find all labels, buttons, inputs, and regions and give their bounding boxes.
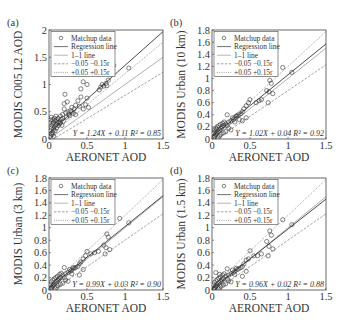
y-tick-label: 1.4 <box>34 197 48 208</box>
legend: Matchup dataRegression line1–1 line−0.05… <box>51 180 117 226</box>
panel-label: (b) <box>170 17 183 29</box>
data-point <box>269 233 273 237</box>
y-tick-label: 1 <box>205 222 210 233</box>
y-tick-label: 1.2 <box>34 210 47 221</box>
data-point <box>127 66 131 70</box>
y-tick-label: 0.4 <box>197 260 211 271</box>
x-axis-label: AERONET AOD <box>229 151 310 163</box>
y-axis-label: MODIS Urban (3 km) <box>12 183 25 286</box>
y-tick-label: 1.6 <box>197 37 210 48</box>
data-point <box>86 105 90 109</box>
y-tick-label: 1.2 <box>197 210 210 221</box>
data-point <box>63 92 67 96</box>
y-tick-label: 1.4 <box>197 197 211 208</box>
data-point <box>240 274 244 278</box>
y-tick-label: 0.4 <box>197 109 211 120</box>
x-tick-label: 0 <box>46 291 51 302</box>
figure-canvas: 00.511.500.511.52AERONET AODMODIS C005 L… <box>0 0 347 329</box>
legend-label: +0.05 +0.15r <box>71 216 110 225</box>
x-tick-label: 0.5 <box>80 140 93 151</box>
data-point <box>267 244 271 248</box>
regression-equation: Y = 0.96X + 0.02 R² = 0.88 <box>235 280 324 289</box>
y-tick-label: 0 <box>205 134 210 145</box>
data-point <box>85 249 89 253</box>
y-tick-label: 1 <box>42 79 47 90</box>
y-tick-label: 1.5 <box>34 52 47 63</box>
y-axis-label: MODIS Urban (1.5 km) <box>175 178 188 289</box>
y-tick-label: 0.2 <box>197 272 210 283</box>
panel-label: (c) <box>7 165 19 177</box>
y-tick-label: 2 <box>42 25 47 36</box>
x-tick-label: 0 <box>209 140 214 151</box>
data-point <box>77 273 81 277</box>
legend-label: +0.05 +0.15r <box>234 68 273 77</box>
y-axis-label: MODIS C005 L2 AOD <box>12 31 24 139</box>
x-tick-label: 0.5 <box>243 291 256 302</box>
x-tick-label: 0.5 <box>243 140 256 151</box>
x-tick-label: 1.5 <box>319 291 332 302</box>
data-point <box>225 267 229 271</box>
y-tick-label: 0.4 <box>34 260 48 271</box>
data-point <box>281 218 285 222</box>
y-tick-label: 1.8 <box>34 173 47 184</box>
y-tick-label: 0.5 <box>34 106 47 117</box>
x-tick-label: 1 <box>122 291 127 302</box>
data-point <box>248 249 252 253</box>
y-axis-label: MODIS Urban (10 km) <box>175 30 188 138</box>
x-tick-label: 1 <box>122 140 127 151</box>
x-tick-label: 1.5 <box>156 291 169 302</box>
y-tick-label: 1.8 <box>197 173 210 184</box>
y-tick-label: 1 <box>42 222 47 233</box>
y-tick-label: 0 <box>205 285 210 296</box>
panel-b: 00.511.500.20.40.60.811.21.41.61.8AERONE… <box>170 17 333 163</box>
y-tick-label: 1.6 <box>197 185 210 196</box>
regression-equation: Y = 1.02X + 0.04 R² = 0.92 <box>235 129 324 138</box>
data-point <box>81 80 85 84</box>
data-point <box>225 113 229 117</box>
data-point <box>62 107 66 111</box>
panel-c: 00.511.500.20.40.60.811.21.41.61.8AERONE… <box>7 165 170 314</box>
y-tick-label: 1.4 <box>197 49 211 60</box>
data-point <box>85 82 89 86</box>
panel-label: (d) <box>170 165 183 177</box>
y-tick-label: 0.6 <box>34 247 47 258</box>
data-point <box>281 65 285 69</box>
x-axis-label: AERONET AOD <box>66 151 147 163</box>
legend-label: +0.05 +0.15r <box>71 68 110 77</box>
data-point <box>62 266 66 270</box>
x-tick-label: 1 <box>285 291 290 302</box>
y-tick-label: 0.2 <box>197 121 210 132</box>
data-point <box>271 247 275 251</box>
x-axis-label: AERONET AOD <box>229 302 310 314</box>
x-tick-label: 0.5 <box>80 291 93 302</box>
x-tick-label: 0 <box>46 140 51 151</box>
data-point <box>218 272 222 276</box>
legend: Matchup dataRegression line1–1 line−0.05… <box>51 32 117 78</box>
data-point <box>244 269 248 273</box>
y-tick-label: 0 <box>42 285 47 296</box>
y-tick-label: 0.8 <box>197 235 210 246</box>
legend-label: +0.05 +0.15r <box>234 216 273 225</box>
y-tick-label: 0.6 <box>197 97 210 108</box>
regression-equation: Y = 0.99X + 0.03 R² = 0.90 <box>72 280 161 289</box>
legend: Matchup dataRegression line1–1 line−0.05… <box>214 180 280 226</box>
y-tick-label: 0.8 <box>34 235 47 246</box>
y-tick-label: 1 <box>205 73 210 84</box>
data-point <box>271 92 275 96</box>
y-tick-label: 0.6 <box>197 247 210 258</box>
data-point <box>265 239 269 243</box>
legend: Matchup dataRegression line1–1 line−0.05… <box>214 32 280 78</box>
panel-d: 00.511.500.20.40.60.811.21.41.61.8AERONE… <box>170 165 333 314</box>
x-tick-label: 0 <box>209 291 214 302</box>
data-point <box>79 95 83 99</box>
y-tick-label: 1.8 <box>197 25 210 36</box>
x-axis-label: AERONET AOD <box>66 302 147 314</box>
x-tick-label: 1.5 <box>156 140 169 151</box>
y-tick-label: 0.2 <box>34 272 47 283</box>
data-point <box>76 99 80 103</box>
y-tick-label: 1.2 <box>197 61 210 72</box>
panel-label: (a) <box>7 17 19 29</box>
y-tick-label: 1.6 <box>34 185 47 196</box>
x-tick-label: 1 <box>285 140 290 151</box>
y-tick-label: 0 <box>42 134 47 145</box>
